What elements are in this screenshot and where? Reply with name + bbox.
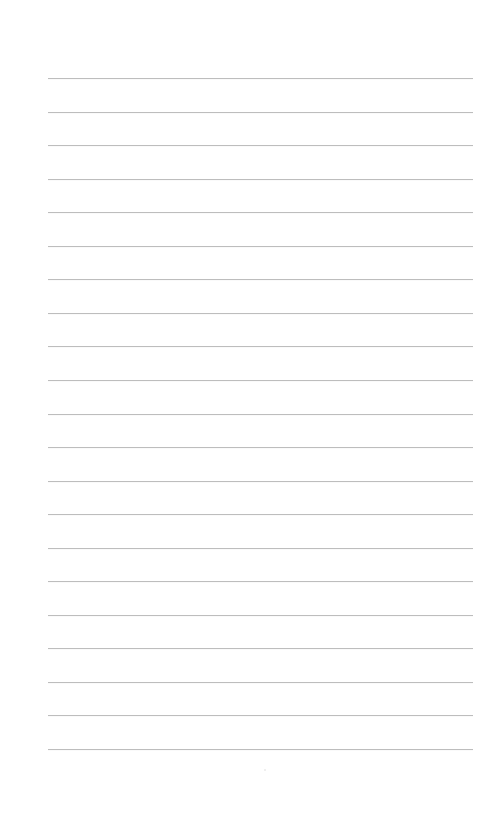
ruled-line bbox=[48, 246, 473, 247]
ruled-line bbox=[48, 145, 473, 146]
ruled-line bbox=[48, 380, 473, 381]
ruled-line bbox=[48, 682, 473, 683]
ruled-line bbox=[48, 548, 473, 549]
ruled-line bbox=[48, 346, 473, 347]
ruled-line bbox=[48, 615, 473, 616]
ruled-line bbox=[48, 414, 473, 415]
ruled-line bbox=[48, 749, 473, 750]
paper-speck bbox=[264, 769, 266, 771]
ruled-line bbox=[48, 112, 473, 113]
ruled-line bbox=[48, 212, 473, 213]
ruled-line bbox=[48, 481, 473, 482]
ruled-line bbox=[48, 313, 473, 314]
ruled-line bbox=[48, 447, 473, 448]
ruled-line bbox=[48, 279, 473, 280]
ruled-line bbox=[48, 715, 473, 716]
ruled-line bbox=[48, 514, 473, 515]
ruled-line bbox=[48, 78, 473, 79]
ruled-line bbox=[48, 179, 473, 180]
ruled-paper-page bbox=[0, 0, 500, 827]
ruled-line bbox=[48, 648, 473, 649]
ruled-line bbox=[48, 581, 473, 582]
